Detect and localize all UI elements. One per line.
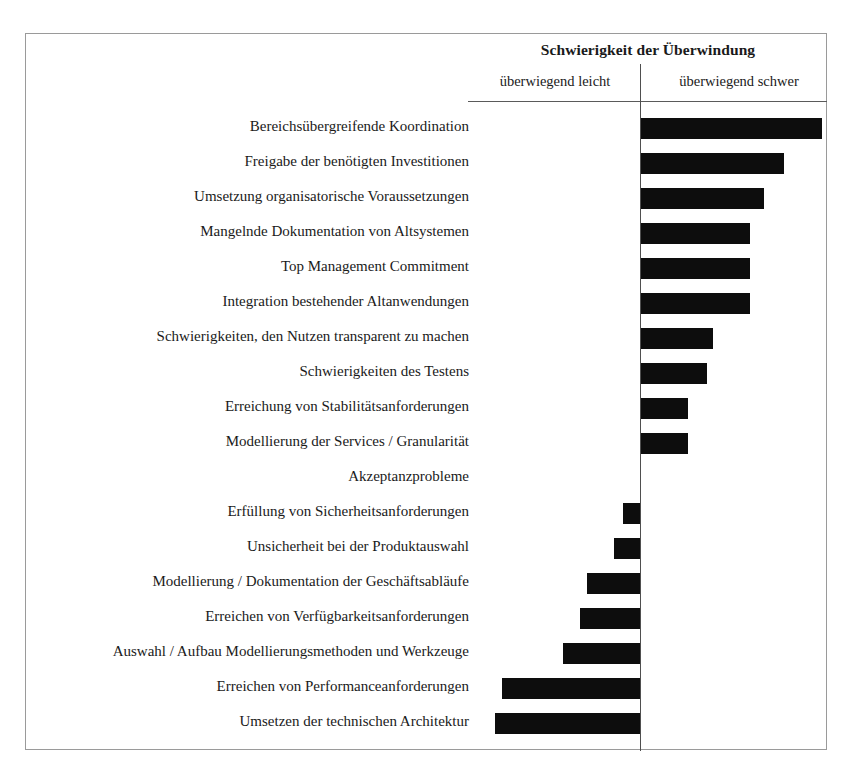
bar-row-label: Bereichsübergreifende Koordination <box>250 118 469 135</box>
bar <box>623 503 640 524</box>
bar-row: Freigabe der benötigten Investitionen <box>26 146 826 181</box>
bar <box>502 678 640 699</box>
bar-row-label: Schwierigkeiten des Testens <box>300 363 469 380</box>
bar-row: Modellierung / Dokumentation der Geschäf… <box>26 566 826 601</box>
bar <box>641 118 822 139</box>
bar-row: Auswahl / Aufbau Modellierungsmethoden u… <box>26 636 826 671</box>
bar-row: Top Management Commitment <box>26 251 826 286</box>
bar <box>587 573 640 594</box>
bar <box>641 188 764 209</box>
chart-title: Schwierigkeit der Überwindung <box>469 41 827 59</box>
bar-row: Akzeptanzprobleme <box>26 461 826 496</box>
bar-row: Erfüllung von Sicherheitsanforderungen <box>26 496 826 531</box>
bar-row-label: Erreichung von Stabilitätsanforderungen <box>225 398 469 415</box>
bar-row: Schwierigkeiten des Testens <box>26 356 826 391</box>
bar-row: Bereichsübergreifende Koordination <box>26 111 826 146</box>
bar-row: Schwierigkeiten, den Nutzen transparent … <box>26 321 826 356</box>
bar-row-label: Umsetzung organisatorische Voraussetzung… <box>194 188 469 205</box>
bar-row: Unsicherheit bei der Produktauswahl <box>26 531 826 566</box>
bar-row-label: Modellierung / Dokumentation der Geschäf… <box>152 573 469 590</box>
bar <box>641 223 750 244</box>
bar-row: Modellierung der Services / Granularität <box>26 426 826 461</box>
bar <box>495 713 640 734</box>
bar-row-label: Modellierung der Services / Granularität <box>226 433 469 450</box>
bar-row-label: Integration bestehender Altanwendungen <box>222 293 469 310</box>
chart-figure: Schwierigkeit der Überwindung überwiegen… <box>25 33 827 750</box>
bar <box>641 153 784 174</box>
bar <box>580 608 640 629</box>
bar-row: Erreichung von Stabilitätsanforderungen <box>26 391 826 426</box>
bar-row-label: Mangelnde Dokumentation von Altsystemen <box>200 223 469 240</box>
plot-area: Bereichsübergreifende KoordinationFreiga… <box>26 64 826 751</box>
bar <box>641 328 713 349</box>
bar-row-label: Schwierigkeiten, den Nutzen transparent … <box>157 328 469 345</box>
bar-row-label: Umsetzen der technischen Architektur <box>240 713 470 730</box>
bar <box>614 538 640 559</box>
bar-row: Integration bestehender Altanwendungen <box>26 286 826 321</box>
bar-row: Umsetzung organisatorische Voraussetzung… <box>26 181 826 216</box>
bar-row-label: Erreichen von Verfügbarkeitsanforderunge… <box>205 608 469 625</box>
bar <box>641 293 750 314</box>
bar <box>641 258 750 279</box>
bar-row-label: Erreichen von Performanceanforderungen <box>217 678 469 695</box>
bar-row: Erreichen von Verfügbarkeitsanforderunge… <box>26 601 826 636</box>
bar-row-label: Auswahl / Aufbau Modellierungsmethoden u… <box>113 643 469 660</box>
bar <box>563 643 640 664</box>
bar-row-label: Erfüllung von Sicherheitsanforderungen <box>227 503 469 520</box>
bar-row-label: Akzeptanzprobleme <box>348 468 469 485</box>
bar <box>641 363 707 384</box>
bar-row-label: Top Management Commitment <box>281 258 469 275</box>
bar-row-label: Unsicherheit bei der Produktauswahl <box>247 538 469 555</box>
bar-row: Umsetzen der technischen Architektur <box>26 706 826 741</box>
bar <box>641 433 688 454</box>
bar-row: Mangelnde Dokumentation von Altsystemen <box>26 216 826 251</box>
bar <box>641 398 688 419</box>
bar-row-label: Freigabe der benötigten Investitionen <box>244 153 469 170</box>
bar-row: Erreichen von Performanceanforderungen <box>26 671 826 706</box>
